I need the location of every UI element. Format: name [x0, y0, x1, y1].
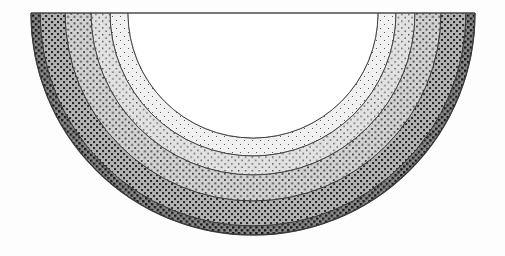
half-annulus-zone-diagram [0, 0, 505, 256]
figure-root [0, 0, 505, 256]
